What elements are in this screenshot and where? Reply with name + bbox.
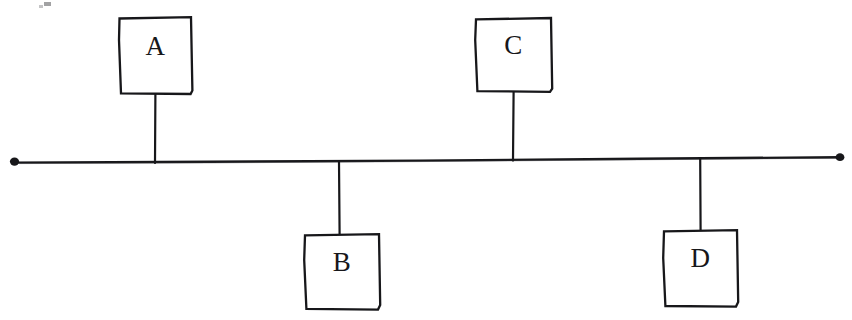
node-box-d[interactable] [663, 230, 738, 306]
node-d-group[interactable] [663, 158, 738, 306]
node-box-c[interactable] [475, 18, 552, 92]
bus-terminator-right [836, 153, 845, 161]
drop-line-c [513, 92, 514, 161]
node-box-a[interactable] [119, 17, 192, 94]
drop-line-b [339, 162, 340, 234]
bus-terminator-left [10, 158, 19, 166]
bus-topology-diagram: A B C D [0, 0, 852, 320]
node-c-group[interactable] [475, 18, 552, 161]
node-box-b[interactable] [304, 234, 380, 309]
node-b-group[interactable] [304, 162, 380, 310]
bus-backbone-group [10, 153, 844, 165]
node-a-group[interactable] [119, 17, 192, 163]
diagram-canvas [0, 0, 852, 320]
